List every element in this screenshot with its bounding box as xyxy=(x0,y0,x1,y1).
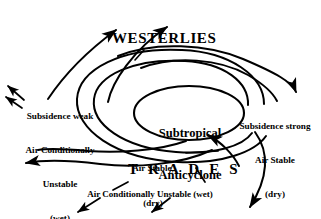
mid-label-line-1: Air Stable, xyxy=(122,163,184,175)
left-label-line-4: (wet) xyxy=(8,213,112,219)
right-label-line-2: Air Stable xyxy=(232,155,318,166)
label-bottom-caption: Air Conditionally Unstable (wet) xyxy=(70,190,230,200)
left-label-line-1: Subsidence weak xyxy=(8,111,112,122)
right-label-line-3: (dry) xyxy=(232,189,318,200)
center-label-line-1: Subtropical xyxy=(144,126,236,140)
right-label-line-1: Subsidence strong xyxy=(232,121,318,132)
label-subsidence-strong-block: Subsidence strong Air Stable (dry) xyxy=(232,98,318,219)
label-westerlies: WESTERLIES xyxy=(112,30,216,46)
label-air-stable-dry: Air Stable, (dry) xyxy=(122,140,184,219)
left-label-line-2: Air Conditionally xyxy=(8,145,112,156)
spiral-icon xyxy=(141,60,277,101)
mid-label-line-2: (dry) xyxy=(122,198,184,210)
weather-diagram: WESTERLIES T R A D E S Subtropical Antic… xyxy=(0,0,321,219)
